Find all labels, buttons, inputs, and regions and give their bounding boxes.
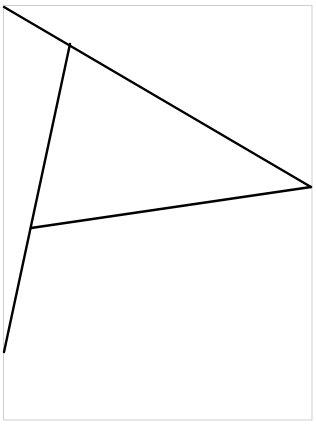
diagram-canvas — [0, 0, 316, 424]
background — [0, 0, 316, 424]
